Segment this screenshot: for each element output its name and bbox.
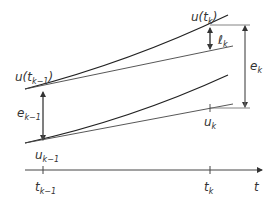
label-u-k: uk (204, 115, 217, 131)
time-axis: t tk−1 tk (25, 166, 262, 196)
solution-curve-lower (25, 75, 228, 143)
label-u-k-minus1: uk−1 (35, 148, 59, 164)
tangent-line-lower (25, 104, 233, 143)
label-e-k-minus1: ek−1 (17, 106, 41, 122)
tick-label-tk: tk (204, 180, 214, 196)
label-ell-k: ℓk (217, 33, 228, 49)
global-error-arrow-ek (210, 25, 250, 108)
error-diagram: t tk−1 tk u(tk−1) u(tk) ℓk ek ek−1 uk uk… (0, 0, 274, 199)
label-e-k: ek (250, 59, 262, 75)
tangent-line-upper (25, 46, 233, 89)
label-u-tk-minus1: u(tk−1) (15, 70, 53, 86)
axis-label-t: t (254, 180, 260, 194)
label-u-tk: u(tk) (191, 10, 217, 26)
exact-solution-curve-upper (25, 15, 228, 89)
tick-label-tk-minus1: tk−1 (35, 180, 56, 196)
